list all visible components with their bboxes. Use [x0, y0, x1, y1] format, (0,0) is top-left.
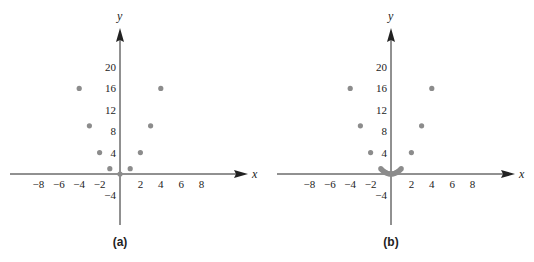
x-tick-label: −6 [324, 178, 336, 190]
y-tick-label: 4 [382, 147, 388, 159]
y-tick-label: 16 [376, 82, 388, 94]
graph-panel-a: xy−8−6−4−2246820161284−4 (a) [0, 0, 267, 262]
y-tick-label: 12 [105, 104, 116, 116]
y-tick-label: 8 [382, 125, 388, 137]
x-tick-label: 6 [178, 178, 184, 190]
data-point [117, 171, 122, 176]
data-point [358, 123, 363, 128]
x-tick-label: 2 [138, 178, 144, 190]
x-tick-label: 4 [429, 178, 435, 190]
y-tick-label: 12 [376, 104, 387, 116]
data-point [399, 166, 404, 171]
panel-caption-b: (b) [371, 235, 411, 249]
x-axis-label: x [251, 167, 258, 181]
y-tick-label: 20 [376, 61, 388, 73]
y-tick-label: 4 [111, 147, 117, 159]
data-point [148, 123, 153, 128]
x-tick-label: 6 [449, 178, 455, 190]
x-tick-label: −6 [53, 178, 65, 190]
data-point [409, 150, 414, 155]
y-tick-label: 16 [105, 82, 117, 94]
x-axis-arrow-icon [501, 170, 515, 178]
x-tick-label: −8 [33, 178, 45, 190]
y-axis-arrow-icon [387, 28, 395, 42]
y-axis-label: y [387, 9, 394, 23]
scatter-plot-b: xy−8−6−4−2246820161284−4 [267, 0, 534, 262]
x-tick-label: −2 [365, 178, 377, 190]
data-point [429, 86, 434, 91]
x-axis-arrow-icon [234, 170, 248, 178]
x-tick-label: −4 [344, 178, 356, 190]
data-point [128, 166, 133, 171]
data-point [348, 86, 353, 91]
data-point [97, 150, 102, 155]
panel-caption-a: (a) [100, 235, 140, 249]
data-point [158, 86, 163, 91]
x-tick-label: −2 [94, 178, 106, 190]
x-axis-label: x [518, 167, 525, 181]
y-tick-label: 8 [111, 125, 117, 137]
x-tick-label: −8 [304, 178, 316, 190]
y-tick-label: 20 [105, 61, 117, 73]
scatter-plot-a: xy−8−6−4−2246820161284−4 [0, 0, 267, 262]
x-tick-label: −4 [73, 178, 85, 190]
data-point [419, 123, 424, 128]
data-point [368, 150, 373, 155]
x-tick-label: 4 [158, 178, 164, 190]
y-axis-arrow-icon [116, 28, 124, 42]
data-point [77, 86, 82, 91]
data-point [138, 150, 143, 155]
x-tick-label: 2 [409, 178, 415, 190]
y-tick-label: −4 [104, 189, 116, 201]
y-axis-label: y [116, 9, 123, 23]
graph-panel-b: xy−8−6−4−2246820161284−4 (b) [267, 0, 534, 262]
y-tick-label: −4 [375, 189, 387, 201]
data-point [87, 123, 92, 128]
x-tick-label: 8 [470, 178, 476, 190]
x-tick-label: 8 [199, 178, 205, 190]
data-point [107, 166, 112, 171]
